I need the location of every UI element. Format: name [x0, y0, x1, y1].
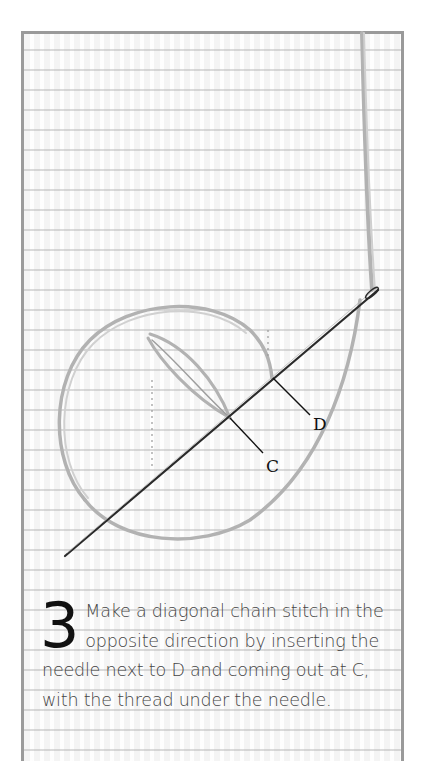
point-c-label: C: [266, 456, 279, 476]
point-d-label: D: [313, 414, 327, 434]
step-number: 3: [40, 601, 79, 651]
step-text: Make a diagonal chain stitch in the oppo…: [42, 601, 384, 710]
step-caption: 3 Make a diagonal chain stitch in the op…: [42, 597, 392, 715]
